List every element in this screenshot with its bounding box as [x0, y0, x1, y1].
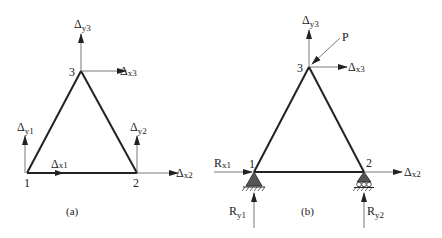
truss-members-b: [254, 67, 364, 172]
label-dx2-b: Δx2: [404, 165, 421, 179]
label-ry1: Ry1: [229, 204, 246, 220]
dof-arrows-a: [25, 34, 178, 173]
label-rx1: Rx1: [214, 156, 231, 170]
label-dx2-a: Δx2: [176, 166, 193, 180]
roller-support-node-2: [353, 172, 374, 191]
label-dx3-b: Δx3: [348, 60, 365, 74]
truss-figure: Δy3 Δx3 Δy1 Δy2 Δx1 Δx2 3 1 2 (a): [0, 0, 442, 238]
caption-b: (b): [301, 205, 314, 218]
label-dy3-a: Δy3: [74, 17, 91, 33]
panel-b: Δy3 P Δx3 Δx2 Rx1 Ry1 Ry2 3 1 2 (b): [214, 13, 421, 228]
caption-a: (a): [66, 205, 79, 218]
node-2-label-b: 2: [366, 156, 372, 170]
node-1-label-b: 1: [249, 157, 255, 171]
node-1-label-a: 1: [24, 176, 30, 190]
label-dy3-b: Δy3: [302, 13, 319, 29]
node-2-label-a: 2: [133, 176, 139, 190]
label-ry2: Ry2: [367, 204, 384, 220]
label-dy1-a: Δy1: [17, 120, 34, 136]
label-dx3-a: Δx3: [120, 64, 137, 78]
pin-support-node-1: [242, 172, 265, 191]
panel-a: Δy3 Δx3 Δy1 Δy2 Δx1 Δx2 3 1 2 (a): [17, 17, 193, 218]
dof-arrows-b: [214, 30, 402, 228]
node-3-label-b: 3: [297, 61, 303, 75]
label-load-p: P: [342, 30, 349, 44]
label-dy2-a: Δy2: [130, 120, 147, 136]
label-dx1-a: Δx1: [51, 157, 68, 171]
truss-members-a: [27, 71, 137, 173]
node-3-label-a: 3: [69, 65, 75, 79]
